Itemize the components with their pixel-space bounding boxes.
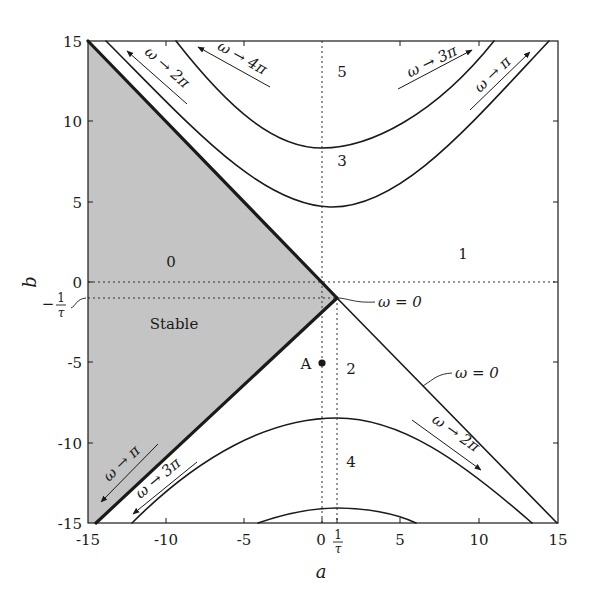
y-tick-labels: 15 10 5 0 -5 -10 -15 − 1 τ bbox=[42, 33, 86, 533]
region-label-4: 4 bbox=[346, 453, 356, 471]
annotation-omega-2pi-bottom: ω → 2π bbox=[429, 410, 484, 456]
y-tick: 5 bbox=[72, 194, 82, 212]
arrow-annotation-2pi-bottom: ω → 2π bbox=[412, 410, 484, 470]
region-label-5: 5 bbox=[337, 63, 347, 81]
point-a-marker bbox=[318, 359, 325, 366]
x-tick: 10 bbox=[469, 531, 488, 549]
annotation-omega-zero-line: ω = 0 bbox=[455, 364, 499, 382]
x-tick: 5 bbox=[395, 531, 405, 549]
y-tick: 10 bbox=[63, 113, 82, 131]
x-tick: 15 bbox=[548, 531, 567, 549]
y-tick-inv-tau-den: τ bbox=[58, 306, 65, 320]
y-tick: -15 bbox=[58, 515, 82, 533]
y-tick: -10 bbox=[58, 435, 82, 453]
x-tick: -5 bbox=[237, 531, 252, 549]
x-tick: 0 bbox=[316, 531, 326, 549]
x-tick-inv-tau-den: τ bbox=[335, 542, 342, 556]
arrow-annotation-3pi-top: ω → 3π bbox=[398, 41, 472, 89]
stability-diagram: -15 -10 -5 0 5 10 15 1 τ 15 10 5 0 -5 -1… bbox=[0, 0, 592, 608]
y-axis-title: b bbox=[19, 276, 40, 288]
omega-zero-line bbox=[337, 298, 557, 523]
x-tick-inv-tau-num: 1 bbox=[334, 528, 342, 542]
annotation-omega-4pi: ω → 4π bbox=[215, 37, 272, 79]
x-tick-labels: -15 -10 -5 0 5 10 15 1 τ bbox=[76, 528, 568, 556]
y-tick-minus: − bbox=[42, 295, 55, 313]
x-axis-title: a bbox=[316, 561, 327, 582]
region-label-3: 3 bbox=[337, 152, 347, 170]
region-label-1: 1 bbox=[458, 245, 468, 263]
region-label-stable: Stable bbox=[150, 315, 199, 333]
annotation-omega-zero-vertex: ω = 0 bbox=[378, 293, 422, 311]
y-tick: -5 bbox=[67, 354, 82, 372]
x-tick: -15 bbox=[76, 531, 100, 549]
annotation-omega-pi-top: ω → π bbox=[470, 52, 515, 96]
point-a-label: A bbox=[300, 355, 312, 373]
annotation-omega-3pi-top: ω → 3π bbox=[404, 41, 461, 81]
y-tick: 0 bbox=[72, 274, 82, 292]
arrow-annotation-pi-top: ω → π bbox=[470, 52, 530, 110]
region-label-2: 2 bbox=[346, 360, 356, 378]
region-label-0: 0 bbox=[166, 253, 176, 271]
y-tick-inv-tau-num: 1 bbox=[57, 291, 65, 305]
x-tick: -10 bbox=[154, 531, 178, 549]
y-tick: 15 bbox=[63, 33, 82, 51]
